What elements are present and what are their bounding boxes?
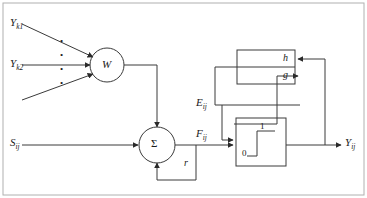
diagram-svg — [0, 0, 367, 198]
label-threshold-low: 0 — [242, 149, 247, 158]
label-sij: Sij — [10, 137, 20, 151]
label-threshold-high: 1 — [260, 122, 265, 131]
input-line-ykn — [22, 74, 93, 100]
diagram-canvas: Yk1 Yk2 Sij • • • • W Σ r h g 0 1 Eij Fi… — [0, 0, 367, 198]
line-w-to-sum — [124, 65, 157, 127]
label-h: h — [283, 53, 288, 63]
label-g: g — [283, 70, 288, 80]
step-function-curve — [247, 131, 275, 156]
label-fij: Fij — [196, 128, 207, 142]
label-yk1: Yk1 — [10, 17, 23, 31]
dot-4: • — [60, 79, 63, 88]
label-sum-node: Σ — [151, 138, 157, 149]
line-eij-to-threshold — [222, 105, 233, 140]
dot-1: • — [60, 37, 63, 46]
label-yij: Yij — [345, 137, 355, 151]
line-y-to-h — [298, 59, 325, 145]
dot-2: • — [60, 51, 63, 60]
dot-3: • — [60, 65, 63, 74]
input-line-yk1 — [22, 24, 93, 57]
label-eij: Eij — [196, 97, 207, 111]
label-weight-node: W — [102, 59, 111, 70]
label-r-gain: r — [184, 158, 188, 168]
label-yk2: Yk2 — [10, 58, 23, 72]
line-hg-out — [215, 67, 237, 105]
